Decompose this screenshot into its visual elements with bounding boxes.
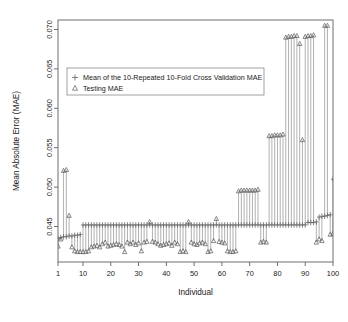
cv-mae-point bbox=[78, 232, 82, 237]
chart-container: 0.0450.0500.0550.0600.0650.070Mean Absol… bbox=[0, 0, 348, 322]
x-tick-label: 80 bbox=[273, 269, 281, 278]
legend-label-cv-mae: Mean of the 10-Repeated 10-Fold Cross Va… bbox=[83, 73, 262, 82]
cv-mae-point bbox=[328, 212, 332, 217]
cv-mae-point bbox=[70, 233, 74, 238]
x-tick-label: 40 bbox=[162, 269, 170, 278]
cv-mae-point bbox=[75, 232, 79, 237]
y-tick-label: 0.055 bbox=[46, 138, 55, 157]
y-tick-label: 0.070 bbox=[46, 20, 55, 38]
y-tick-label: 0.045 bbox=[46, 217, 55, 236]
x-tick-label: 1 bbox=[56, 269, 60, 278]
x-tick-label: 60 bbox=[218, 269, 226, 278]
plot-frame bbox=[58, 20, 333, 262]
cv-mae-point bbox=[303, 222, 307, 227]
x-tick-label: 100 bbox=[327, 269, 339, 278]
cv-mae-point bbox=[64, 234, 68, 239]
y-axis-title: Mean Absolute Error (MAE) bbox=[12, 91, 21, 191]
y-tick-label: 0.065 bbox=[46, 60, 55, 79]
x-axis-title: Individual bbox=[178, 288, 213, 297]
y-tick-label: 0.050 bbox=[46, 178, 55, 197]
chart-legend: Mean of the 10-Repeated 10-Fold Cross Va… bbox=[67, 68, 264, 95]
data-layer bbox=[56, 23, 335, 253]
legend-label-testing-mae: Testing MAE bbox=[83, 84, 124, 93]
mae-scatter-chart: 0.0450.0500.0550.0600.0650.070Mean Absol… bbox=[0, 0, 348, 322]
cv-mae-point bbox=[317, 214, 321, 219]
cv-mae-point bbox=[325, 213, 329, 218]
x-tick-label: 50 bbox=[190, 269, 198, 278]
x-tick-label: 90 bbox=[301, 269, 309, 278]
x-tick-label: 20 bbox=[107, 269, 115, 278]
x-tick-label: 10 bbox=[79, 269, 87, 278]
cv-mae-point bbox=[331, 177, 335, 182]
y-tick-label: 0.060 bbox=[46, 99, 55, 118]
cv-mae-point bbox=[314, 219, 318, 224]
x-tick-label: 70 bbox=[246, 269, 254, 278]
cv-mae-point bbox=[56, 236, 60, 241]
x-tick-label: 30 bbox=[134, 269, 142, 278]
cv-mae-point bbox=[311, 220, 315, 225]
cv-mae-point bbox=[323, 214, 327, 219]
